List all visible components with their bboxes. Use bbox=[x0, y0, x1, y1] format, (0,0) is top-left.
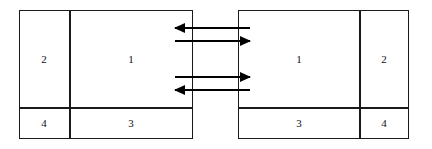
left-block-vertical-divider bbox=[69, 10, 71, 139]
arrow-1-head bbox=[174, 23, 185, 33]
arrow-1-shaft bbox=[175, 27, 250, 29]
right-cell-2-label: 2 bbox=[381, 54, 387, 65]
arrow-1-leftward-icon bbox=[175, 23, 250, 34]
right-cell-1-label: 1 bbox=[296, 54, 302, 65]
arrow-3-rightward-icon bbox=[175, 72, 250, 83]
arrow-2-rightward-icon bbox=[175, 36, 250, 47]
arrow-2-head bbox=[240, 36, 251, 46]
arrow-3-head bbox=[240, 72, 251, 82]
arrow-2-shaft bbox=[175, 40, 250, 42]
right-block-vertical-divider bbox=[359, 10, 361, 139]
left-cell-2-label: 2 bbox=[41, 54, 47, 65]
arrow-4-shaft bbox=[175, 89, 250, 91]
right-block-horizontal-divider bbox=[238, 107, 409, 109]
right-cell-4-label: 4 bbox=[381, 118, 387, 129]
arrow-4-leftward-icon bbox=[175, 85, 250, 96]
arrow-3-shaft bbox=[175, 76, 250, 78]
diagram-canvas: 2 1 4 3 1 2 3 4 bbox=[0, 0, 432, 149]
arrow-4-head bbox=[174, 85, 185, 95]
left-cell-4-label: 4 bbox=[41, 118, 47, 129]
right-cell-3-label: 3 bbox=[296, 118, 302, 129]
left-block-horizontal-divider bbox=[19, 107, 193, 109]
left-cell-1-label: 1 bbox=[128, 54, 134, 65]
left-cell-3-label: 3 bbox=[128, 118, 134, 129]
